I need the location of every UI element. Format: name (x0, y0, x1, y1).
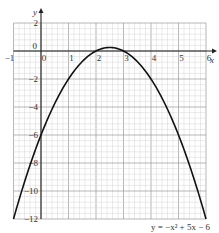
svg-text:−6: −6 (28, 130, 38, 140)
svg-text:−1: −1 (5, 53, 15, 63)
svg-text:4: 4 (152, 53, 157, 63)
svg-text:0: 0 (42, 53, 47, 63)
svg-text:−2: −2 (28, 74, 38, 84)
svg-text:0: 0 (33, 41, 38, 51)
svg-text:1: 1 (69, 53, 74, 63)
svg-text:−4: −4 (28, 102, 38, 112)
svg-text:2: 2 (34, 18, 39, 28)
x-axis-label: x (209, 55, 214, 65)
svg-text:2: 2 (97, 53, 102, 63)
svg-text:5: 5 (179, 53, 184, 63)
y-axis-label: y (32, 7, 37, 17)
tick-labels: −1012345620−2−4−6−8−10−12 (5, 18, 212, 224)
svg-text:−10: −10 (24, 186, 39, 196)
equation-label: y = −x² + 5x − 6 (151, 222, 211, 232)
svg-text:−12: −12 (24, 214, 38, 224)
parabola-chart: −1012345620−2−4−6−8−10−12 x y y = −x² + … (0, 0, 219, 233)
